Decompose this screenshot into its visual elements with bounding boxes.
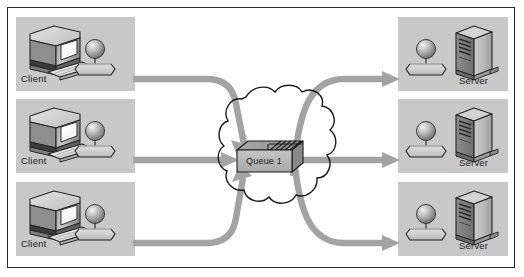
diagram-figure: Queue 1 Client Client — [0, 0, 524, 277]
arrowhead-out-bottom — [382, 235, 400, 251]
flow-arrow-client1-to-queue — [133, 79, 244, 144]
server-label-2: Server — [459, 157, 488, 168]
arrowhead-in-mid — [221, 152, 239, 168]
diagram-canvas: Queue 1 Client Client — [0, 0, 524, 277]
flow-arrows-outbound — [293, 79, 392, 243]
server-tower-icon — [456, 26, 498, 80]
client-label-2: Client — [21, 155, 47, 166]
arrowhead-out-mid — [382, 152, 400, 168]
server-label-3: Server — [459, 240, 488, 251]
server-tower-icon — [456, 108, 498, 162]
server-label-1: Server — [459, 75, 488, 86]
client-label-3: Client — [21, 238, 47, 249]
client-label-1: Client — [21, 73, 47, 84]
queue-label: Queue 1 — [246, 156, 282, 166]
arrowhead-out-top — [382, 71, 400, 87]
flow-arrowheads-outbound — [382, 71, 400, 251]
server-tower-icon — [456, 191, 498, 245]
flow-arrow-client3-to-queue — [133, 178, 243, 243]
queue-node[interactable]: Queue 1 — [237, 141, 303, 172]
